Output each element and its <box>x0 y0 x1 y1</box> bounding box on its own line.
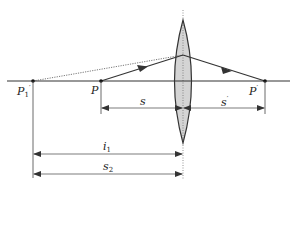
label-s2: s2 <box>103 161 113 174</box>
label-s-prime: s′ <box>221 96 228 108</box>
label-i1-sub: 1 <box>107 146 111 154</box>
label-P-main: P <box>91 84 98 97</box>
label-P: P <box>91 85 98 96</box>
label-i1: i1 <box>103 141 111 154</box>
virtual-ray-extension <box>33 55 183 81</box>
label-P1-prime-sup: ′ <box>29 84 31 92</box>
refracted-ray <box>183 55 265 81</box>
label-s-main: s <box>140 95 146 108</box>
label-P-prime: P′ <box>249 85 258 97</box>
label-s2-sub: 2 <box>109 166 113 174</box>
label-P1-prime: P1′ <box>17 85 30 99</box>
label-s-prime-sup: ′ <box>227 95 229 103</box>
label-P-prime-sup: ′ <box>256 84 258 92</box>
label-s: s <box>140 96 146 107</box>
label-P1-prime-sub: 1 <box>24 91 28 99</box>
refracted-ray-arrow-icon <box>221 67 232 74</box>
